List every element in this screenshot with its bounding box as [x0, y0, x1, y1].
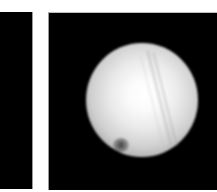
dark-spot	[113, 138, 129, 152]
image-stage	[0, 0, 217, 192]
left-image-panel	[0, 12, 33, 189]
bright-sphere	[86, 43, 198, 157]
diagonal-streak	[152, 52, 178, 146]
right-image-panel	[48, 12, 217, 190]
